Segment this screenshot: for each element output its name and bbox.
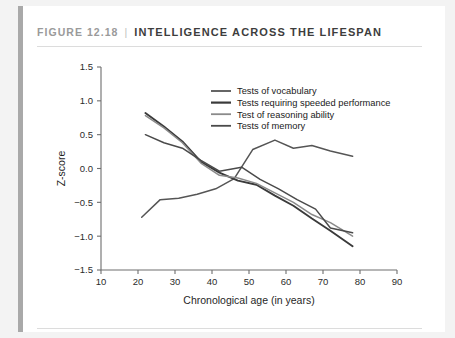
x-tick-label: 20 [133, 276, 144, 287]
x-tick-label: 30 [170, 276, 181, 287]
chart-legend: Tests of vocabularyTests requiring speed… [211, 86, 391, 131]
series-line-2 [145, 116, 352, 236]
legend-label-2: Test of reasoning ability [237, 110, 335, 120]
y-axis-title: Z-score [55, 151, 67, 187]
line-chart: −1.5−1.0−0.50.00.51.01.51020304050607080… [23, 6, 445, 332]
series-line-0 [142, 140, 353, 217]
x-tick-label: 90 [392, 276, 403, 287]
chart-axis-titles: Chronological age (in years)Z-score [55, 151, 315, 306]
x-tick-label: 80 [355, 276, 366, 287]
chart-series [142, 113, 353, 246]
plot-area: −1.5−1.0−0.50.00.51.01.51020304050607080… [23, 6, 445, 332]
y-tick-label: −0.5 [74, 197, 93, 208]
y-tick-label: 1.0 [80, 95, 93, 106]
footer-divider [37, 328, 422, 329]
legend-label-1: Tests requiring speeded performance [237, 98, 391, 108]
x-axis-title: Chronological age (in years) [183, 294, 314, 306]
series-line-1 [145, 113, 352, 246]
legend-label-3: Tests of memory [237, 121, 306, 131]
figure-card: FIGURE 12.18|INTELLIGENCE ACROSS THE LIF… [0, 0, 455, 338]
x-tick-label: 50 [244, 276, 255, 287]
y-tick-label: 0.5 [80, 129, 93, 140]
frame-gutter-bottom [0, 332, 455, 338]
frame-gutter-left [0, 0, 18, 338]
figure-body: FIGURE 12.18|INTELLIGENCE ACROSS THE LIF… [23, 6, 445, 332]
y-tick-label: −1.5 [74, 264, 93, 275]
x-tick-label: 10 [96, 276, 107, 287]
y-tick-label: 0.0 [80, 163, 93, 174]
x-tick-label: 40 [207, 276, 218, 287]
x-tick-label: 70 [318, 276, 329, 287]
x-tick-label: 60 [281, 276, 292, 287]
y-tick-label: 1.5 [80, 61, 93, 72]
legend-label-0: Tests of vocabulary [237, 86, 317, 96]
frame-gutter-right [445, 0, 455, 338]
y-tick-label: −1.0 [74, 231, 93, 242]
